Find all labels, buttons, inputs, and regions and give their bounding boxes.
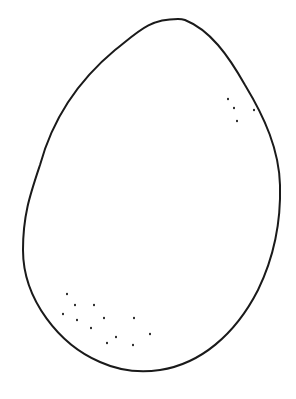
speckle-dot [253,109,255,111]
speckle-dot [90,327,92,329]
speckle-dot [133,317,135,319]
speckle-dot [149,333,151,335]
speckle-dot [236,120,238,122]
speckle-dot [103,317,105,319]
speckle-dot [106,342,108,344]
speckle-dot [233,107,235,109]
speckle-dot [227,98,229,100]
speckle-dot [74,304,76,306]
speckle-dot [93,304,95,306]
speckle-dot [132,344,134,346]
speckle-dot [115,336,117,338]
egg-drawing [0,0,296,399]
speckle-dot [66,293,68,295]
speckle-dot [62,313,64,315]
speckle-dot [76,319,78,321]
background [0,0,296,399]
